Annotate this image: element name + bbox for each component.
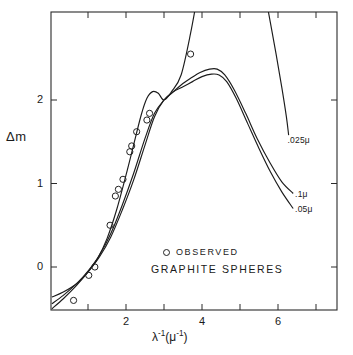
legend-marker-icon (163, 249, 170, 256)
y-tick-label: 0 (29, 261, 43, 272)
x-tick-label: 2 (119, 316, 133, 327)
legend-title: GRAPHITE SPHERES (151, 264, 283, 275)
chart-canvas (0, 0, 353, 355)
observed-point (144, 117, 150, 123)
y-tick-label: 2 (29, 94, 43, 105)
x-tick-label: 6 (271, 316, 285, 327)
observed-point (188, 51, 194, 57)
y-axis-label: Δm (6, 130, 27, 143)
observed-point (146, 110, 152, 116)
curve-.025μ-descending (261, 0, 289, 135)
curve-label-.1μ: .1μ (295, 190, 308, 199)
observed-point (115, 186, 121, 192)
observed-point (112, 193, 118, 199)
y-tick-label: 1 (29, 178, 43, 189)
x-tick-label: 4 (195, 316, 209, 327)
legend-observed-label: OBSERVED (176, 248, 239, 257)
extinction-curve-figure: Δm λ-1(μ-1) 012 246 .025μ.05μ.1μ OBSERVE… (0, 0, 353, 355)
observed-point (70, 297, 76, 303)
curve-label-.025μ: .025μ (288, 136, 310, 145)
observed-point (86, 272, 92, 278)
x-axis-label: λ-1(μ-1) (152, 330, 187, 343)
curve-label-.05μ: .05μ (295, 205, 313, 214)
